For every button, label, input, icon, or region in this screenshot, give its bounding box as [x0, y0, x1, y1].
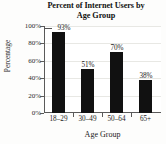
leader-line-vertical: [44, 28, 45, 33]
bar-50-64: [110, 52, 123, 113]
bar-value-30-49: 51%: [73, 61, 103, 69]
y-tick-label-100: 100%: [15, 23, 41, 30]
y-tick-label-0: 0%: [15, 110, 41, 117]
x-tick-label-65-plus: 65+: [130, 115, 162, 123]
x-tick-label-50-64: 50–64: [101, 115, 133, 123]
y-tick-label-60: 60%: [15, 58, 41, 65]
bar-65-plus: [139, 80, 152, 113]
bar-value-18-29: 93%: [49, 24, 79, 32]
bar-value-50-64: 70%: [102, 44, 132, 52]
x-tick-label-18-29: 18–29: [43, 115, 75, 123]
y-axis-title: Percentage: [4, 24, 12, 88]
chart-title-line-1: Percent of Internet Users by: [26, 1, 166, 11]
chart-title: Percent of Internet Users by Age Group: [26, 1, 166, 20]
y-tick-label-40: 40%: [15, 75, 41, 82]
bar-value-65-plus: 38%: [131, 72, 161, 80]
bar-18-29: [52, 32, 65, 113]
y-tick-label-20: 20%: [15, 93, 41, 100]
chart-title-line-2: Age Group: [26, 11, 166, 21]
x-tick-label-30-49: 30–49: [72, 115, 104, 123]
x-axis-title: Age Group: [44, 130, 161, 139]
bar-30-49: [81, 69, 94, 113]
bar-chart: Percent of Internet Users by Age Group P…: [0, 0, 166, 144]
y-tick-mark-0: [40, 113, 44, 114]
y-tick-label-80: 80%: [15, 40, 41, 47]
